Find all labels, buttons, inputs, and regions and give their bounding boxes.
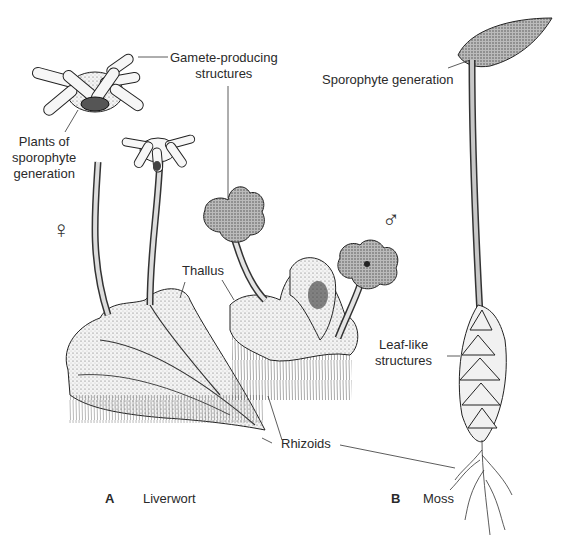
panel-a-letter: A	[105, 491, 114, 506]
panel-b-letter: B	[391, 491, 400, 506]
illustration	[0, 0, 576, 544]
panel-a-name: Liverwort	[143, 491, 196, 506]
label-line-2: structures	[375, 353, 432, 369]
archegoniophore-1	[31, 52, 145, 117]
label-thallus: Thallus	[182, 263, 224, 279]
panel-b-name: Moss	[423, 491, 454, 506]
male-symbol-icon: ♂	[382, 208, 400, 232]
female-symbol-icon: ♀	[52, 218, 70, 242]
label-line-1: Gamete-producing	[170, 50, 278, 66]
antheridiophore-1	[204, 187, 265, 242]
label-line-2: sporophyte	[12, 150, 76, 166]
antheridiophore-2	[338, 240, 398, 289]
label-line-1: Leaf-like	[375, 337, 432, 353]
label-line-3: generation	[12, 166, 76, 182]
label-line-1: Plants of	[12, 134, 76, 150]
label-gamete-producing-structures: Gamete-producing structures	[170, 50, 278, 82]
moss-leafy-shoot	[459, 305, 506, 442]
archegoniophore-2	[122, 134, 196, 172]
diagram-canvas: Gamete-producing structures Plants of sp…	[0, 0, 576, 544]
label-line-2: structures	[170, 66, 278, 82]
label-plants-of-sporophyte-generation: Plants of sporophyte generation	[12, 134, 76, 182]
moss-capsule	[458, 18, 552, 67]
label-leaf-like-structures: Leaf-like structures	[375, 337, 432, 369]
moss-rhizoids	[450, 440, 512, 535]
label-rhizoids: Rhizoids	[281, 436, 331, 452]
label-sporophyte-generation: Sporophyte generation	[322, 72, 454, 88]
